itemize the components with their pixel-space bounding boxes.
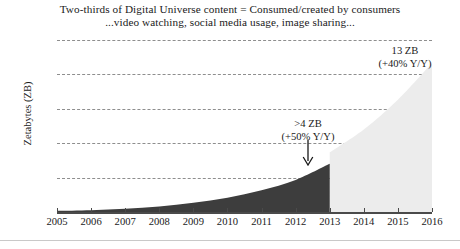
x-axis-tick [364,208,365,212]
x-axis-tick [398,208,399,212]
x-axis-tick [193,208,194,212]
chart-title-block: Two-thirds of Digital Universe content =… [0,3,460,29]
x-axis-tick [432,208,433,212]
digital-universe-area-chart: Two-thirds of Digital Universe content =… [0,0,460,249]
x-axis-tick [57,208,58,212]
annotation-endpoint: 13 ZB (+40% Y/Y) [355,44,455,70]
annotation-endpoint-growth: (+40% Y/Y) [355,57,455,70]
x-axis-tick [330,208,331,212]
x-axis-tick [296,208,297,212]
annotation-endpoint-value: 13 ZB [355,44,455,57]
x-axis-tick [262,208,263,212]
y-axis-title: Zetabytes (ZB) [22,64,33,164]
x-axis-tick [159,208,160,212]
bottom-divider [0,240,460,241]
chart-title-subtitle: ...video watching, social media usage, i… [0,16,460,29]
actual-area [57,164,330,212]
down-arrow-icon [300,140,316,166]
chart-title-line-1: Two-thirds of Digital Universe content =… [0,3,460,16]
annotation-midpoint-value: >4 ZB [248,117,368,130]
x-axis-tick [125,208,126,212]
x-axis-tick-label: 2016 [410,216,454,227]
x-axis-line [57,212,432,214]
x-axis-tick [91,208,92,212]
x-axis-tick [227,208,228,212]
